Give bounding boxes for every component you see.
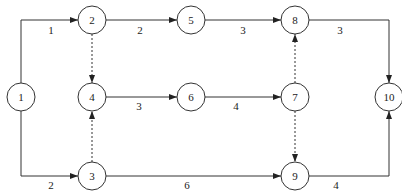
svg-text:5: 5: [188, 14, 194, 26]
node-5: 5: [177, 6, 205, 34]
edge-label-1-3: 2: [48, 179, 54, 191]
svg-text:2: 2: [89, 14, 95, 26]
node-9: 9: [281, 162, 309, 190]
edge-8-10: [309, 20, 389, 83]
network-diagram: 1 2 3 3 3 4 2 6 4 1 2 5 8 10 4 6 7 3 9: [0, 0, 402, 196]
edge-label-8-10: 3: [337, 24, 343, 36]
edge-label-2-5: 2: [137, 24, 143, 36]
node-8: 8: [281, 6, 309, 34]
svg-text:6: 6: [188, 91, 194, 103]
node-2: 2: [78, 6, 106, 34]
svg-text:9: 9: [292, 170, 298, 182]
node-10: 10: [375, 83, 402, 111]
edge-9-10: [309, 111, 389, 176]
edge-label-3-9: 6: [184, 179, 190, 191]
svg-text:1: 1: [18, 91, 24, 103]
edge-1-3: [21, 111, 78, 176]
edge-label-9-10: 4: [333, 179, 339, 191]
edge-label-1-2: 1: [48, 24, 54, 36]
svg-text:10: 10: [384, 91, 396, 103]
node-7: 7: [281, 83, 309, 111]
svg-text:7: 7: [292, 91, 298, 103]
node-4: 4: [78, 83, 106, 111]
svg-text:3: 3: [89, 170, 95, 182]
svg-text:8: 8: [292, 14, 298, 26]
svg-text:4: 4: [89, 91, 95, 103]
node-1: 1: [7, 83, 35, 111]
edge-label-6-7: 4: [233, 100, 239, 112]
edge-label-4-6: 3: [136, 100, 142, 112]
edge-label-5-8: 3: [240, 24, 246, 36]
node-3: 3: [78, 162, 106, 190]
node-6: 6: [177, 83, 205, 111]
